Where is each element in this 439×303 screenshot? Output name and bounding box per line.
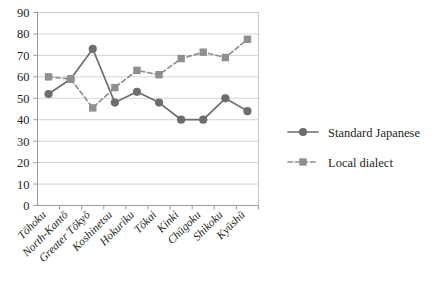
- data-point-marker: [155, 98, 163, 106]
- x-axis-ticks-group: [60, 206, 259, 210]
- data-point-marker: [111, 84, 118, 91]
- x-axis-labels-group: TōhokuNorth-KantōGreater TōkyōKoshinetsu…: [15, 208, 248, 265]
- data-point-marker: [199, 116, 207, 124]
- series-lines-group: [49, 39, 248, 119]
- y-axis-labels-group: 0102030405060708090: [17, 6, 30, 213]
- data-point-marker: [243, 107, 251, 115]
- legend-circle-marker: [299, 128, 307, 136]
- data-point-marker: [111, 98, 119, 106]
- legend-label-standard-japanese: Standard Japanese: [328, 126, 420, 140]
- data-point-marker: [244, 36, 251, 43]
- chart-container: 0102030405060708090 TōhokuNorth-KantōGre…: [0, 0, 439, 303]
- data-point-marker: [89, 45, 97, 53]
- y-axis-tick-label: 80: [17, 27, 30, 41]
- y-axis-tick-label: 20: [17, 156, 30, 170]
- series-markers-group: [44, 36, 251, 124]
- data-point-marker: [222, 54, 229, 61]
- data-point-marker: [221, 94, 229, 102]
- data-point-marker: [133, 88, 141, 96]
- legend-label-local-dialect: Local dialect: [328, 156, 393, 170]
- y-axis-tick-label: 40: [17, 113, 30, 127]
- y-axis-tick-label: 60: [17, 70, 30, 84]
- y-axis-tick-label: 0: [23, 199, 29, 213]
- data-point-marker: [155, 71, 162, 78]
- data-point-marker: [133, 67, 140, 74]
- chart-legend: Standard JapaneseLocal dialect: [288, 126, 420, 170]
- data-point-marker: [45, 73, 52, 80]
- legend-square-marker: [299, 158, 306, 165]
- y-axis-tick-label: 70: [17, 49, 30, 63]
- y-axis-tick-label: 90: [17, 6, 30, 20]
- data-point-marker: [44, 90, 52, 98]
- y-axis-tick-label: 30: [17, 135, 30, 149]
- y-axis-tick-label: 10: [17, 178, 30, 192]
- series-line-standard-japanese: [49, 49, 248, 120]
- line-chart: 0102030405060708090 TōhokuNorth-KantōGre…: [0, 0, 439, 303]
- x-axis-tick-label: Tōkai: [131, 208, 158, 235]
- data-point-marker: [200, 48, 207, 55]
- data-point-marker: [89, 104, 96, 111]
- gridlines-group: [38, 13, 259, 206]
- data-point-marker: [177, 116, 185, 124]
- y-axis-ticks-group: [34, 13, 38, 206]
- chart-frame: [38, 13, 259, 206]
- data-point-marker: [177, 55, 184, 62]
- y-axis-tick-label: 50: [17, 92, 30, 106]
- data-point-marker: [67, 75, 74, 82]
